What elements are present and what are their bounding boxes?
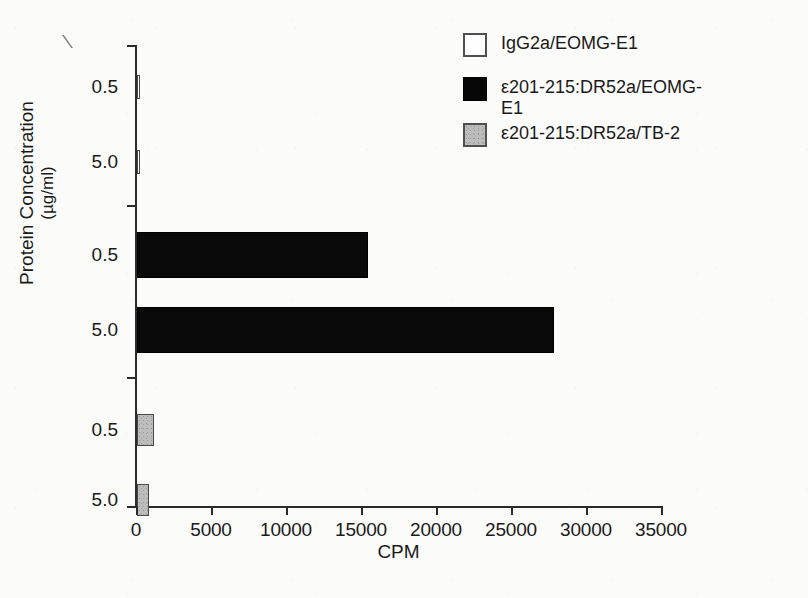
x-axis-tick <box>661 506 663 515</box>
x-axis-title: CPM <box>135 541 662 563</box>
bar <box>137 484 149 516</box>
y-axis-tick-label: 5.0 <box>92 319 118 341</box>
x-axis-tick-label: 10000 <box>260 519 312 541</box>
legend-swatch-white <box>463 33 487 57</box>
x-axis-tick <box>436 506 438 515</box>
y-axis-group-tick <box>127 45 136 47</box>
bar <box>137 75 140 99</box>
x-axis-tick <box>211 506 213 515</box>
legend-item: IgG2a/EOMG-E1 <box>463 33 638 57</box>
y-axis-group-tick <box>127 377 136 379</box>
y-axis-tick-label: 0.5 <box>92 244 118 266</box>
y-axis-tick-label: 5.0 <box>92 489 118 511</box>
x-axis-tick-label: 30000 <box>560 519 612 541</box>
y-axis-tick-labels: 0.55.00.55.00.55.0 <box>0 45 118 508</box>
x-axis-tick <box>361 506 363 515</box>
x-axis-tick <box>511 506 513 515</box>
x-axis-tick-label: 20000 <box>410 519 462 541</box>
legend-swatch-gray <box>463 123 487 147</box>
x-axis-tick <box>286 506 288 515</box>
x-axis-tick-label: 25000 <box>485 519 537 541</box>
legend-label: IgG2a/EOMG-E1 <box>501 33 638 54</box>
x-axis-tick <box>136 506 138 515</box>
legend-label: ε201-215:DR52a/TB-2 <box>501 123 680 144</box>
legend-item: ε201-215:DR52a/EOMG- E1 <box>463 77 702 119</box>
y-axis-group-tick <box>127 205 136 207</box>
figure-canvas: Protein Concentration (µg/ml) 0.55.00.55… <box>0 0 808 598</box>
x-axis-line <box>135 506 662 508</box>
legend-item: ε201-215:DR52a/TB-2 <box>463 123 680 147</box>
x-axis-tick-label: 35000 <box>635 519 687 541</box>
x-axis-tick-label: 15000 <box>335 519 387 541</box>
bar <box>137 232 368 278</box>
bar <box>137 150 140 174</box>
x-axis-tick <box>586 506 588 515</box>
bar <box>137 307 554 353</box>
y-axis-tick-label: 0.5 <box>92 419 118 441</box>
y-axis-tick-label: 0.5 <box>92 76 118 98</box>
x-axis-tick-label: 5000 <box>190 519 231 541</box>
y-axis-group-tick <box>127 506 136 508</box>
legend-swatch-black <box>463 77 487 101</box>
legend-label: ε201-215:DR52a/EOMG- E1 <box>501 77 702 119</box>
bar <box>137 414 154 446</box>
x-axis-tick-label: 0 <box>131 519 141 541</box>
y-axis-tick-label: 5.0 <box>92 151 118 173</box>
